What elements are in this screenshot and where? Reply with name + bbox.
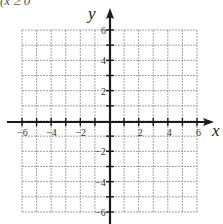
coordinate-grid-chart: −6−4−2246642−2−4−6 x y xyxy=(0,0,223,224)
x-tick-label: 4 xyxy=(167,127,172,138)
x-tick-label: −6 xyxy=(17,127,28,138)
x-tick-label: 6 xyxy=(196,127,201,138)
y-tick-label: 4 xyxy=(101,55,106,66)
x-tick-label: −4 xyxy=(46,127,57,138)
y-tick-label: 6 xyxy=(101,25,106,36)
x-tick-label: −2 xyxy=(75,127,86,138)
y-axis-label: y xyxy=(86,4,96,23)
y-tick-label: −2 xyxy=(95,146,106,157)
axes xyxy=(7,8,214,224)
y-tick-label: 2 xyxy=(101,86,106,97)
y-tick-label: −4 xyxy=(95,177,106,188)
y-tick-label: −6 xyxy=(95,207,106,218)
x-axis-label: x xyxy=(211,121,220,140)
x-tick-label: 2 xyxy=(138,127,143,138)
